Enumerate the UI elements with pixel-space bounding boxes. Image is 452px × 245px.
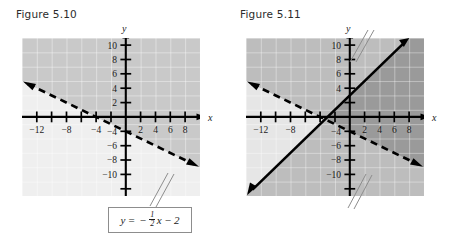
eq-sign: − [138,215,148,226]
x-axis-label: x [431,112,437,123]
x-axis-label: x [207,112,213,123]
eq-tail: 2 [174,215,180,226]
eq-numerator: 1 [149,211,155,219]
equation-callout-dashed-line: y = − 1 2 x − 2 [108,207,192,233]
figure-5-10: Figure 5.10 [0,0,226,245]
figure-5-11-overlay: x y [226,0,452,245]
eq-fraction: 1 2 [149,211,155,229]
eq-tail-op: − [163,215,173,226]
figure-5-11: Figure 5.11 [226,0,452,245]
eq-equals: = [126,215,136,226]
y-axis-label: y [345,23,351,34]
equation-text: y = − 1 2 x − 2 [121,211,180,229]
eq-lhs: y [121,215,126,226]
eq-variable: x [157,215,162,226]
eq-denominator: 2 [149,219,155,228]
y-axis-label: y [121,23,127,34]
